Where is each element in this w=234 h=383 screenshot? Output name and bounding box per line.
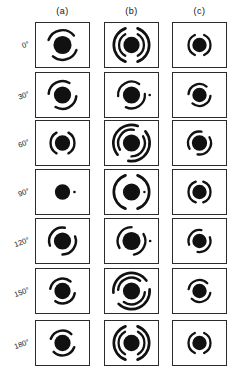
- pattern-core-disk: [55, 184, 70, 199]
- speckle-pattern-icon: [173, 170, 226, 214]
- speckle-pattern-icon: [105, 170, 158, 214]
- speckle-pattern-icon: [105, 219, 158, 263]
- pattern-core-disk: [192, 38, 206, 52]
- pattern-core-disk: [123, 335, 139, 351]
- pattern-panel-a-row2: [35, 120, 90, 166]
- speckle-pattern-icon: [105, 269, 158, 313]
- pattern-core-disk: [53, 36, 71, 54]
- pattern-panel-c-row1: [172, 72, 227, 118]
- pattern-panel-b-row0: [104, 22, 159, 68]
- speckle-pattern-icon: [173, 269, 226, 313]
- pattern-panel-c-row2: [172, 120, 227, 166]
- pattern-panel-b-row4: [104, 218, 159, 264]
- pattern-core-disk: [192, 284, 206, 298]
- pattern-core-disk: [192, 135, 207, 150]
- pattern-panel-c-row6: [172, 320, 227, 366]
- row-label-angle-2: 60°: [0, 137, 30, 155]
- pattern-core-disk: [123, 134, 140, 151]
- pattern-core-disk: [54, 335, 70, 351]
- pattern-panel-a-row0: [35, 22, 90, 68]
- speckle-pattern-icon: [173, 321, 226, 365]
- column-header-c: (c): [172, 6, 227, 16]
- pattern-core-disk: [55, 135, 70, 150]
- pattern-core-disk: [54, 232, 71, 249]
- row-label-angle-5: 150°: [0, 285, 30, 303]
- speckle-pattern-icon: [36, 170, 89, 214]
- speckle-pattern-icon: [173, 121, 226, 165]
- speckle-pattern-icon: [36, 321, 89, 365]
- pattern-core-disk: [54, 283, 70, 299]
- speckle-pattern-icon: [36, 219, 89, 263]
- pattern-core-disk: [192, 234, 206, 248]
- row-label-angle-4: 120°: [0, 235, 30, 253]
- row-label-angle-6: 180°: [0, 337, 30, 355]
- speckle-pattern-icon: [36, 121, 89, 165]
- speckle-pattern-icon: [36, 73, 89, 117]
- pattern-core-disk: [54, 86, 71, 103]
- pattern-panel-b-row2: [104, 120, 159, 166]
- pattern-panel-b-row6: [104, 320, 159, 366]
- pattern-panel-a-row1: [35, 72, 90, 118]
- pattern-panel-b-row1: [104, 72, 159, 118]
- speckle-pattern-icon: [105, 23, 158, 67]
- speckle-pattern-icon: [173, 219, 226, 263]
- pattern-panel-b-row3: [104, 169, 159, 215]
- pattern-core-disk: [123, 86, 140, 103]
- pattern-panel-b-row5: [104, 268, 159, 314]
- pattern-panel-c-row0: [172, 22, 227, 68]
- column-header-b: (b): [104, 6, 159, 16]
- pattern-panel-a-row3: [35, 169, 90, 215]
- pattern-panel-c-row4: [172, 218, 227, 264]
- pattern-core-disk: [123, 37, 139, 53]
- speckle-pattern-icon: [36, 23, 89, 67]
- pattern-panel-a-row4: [35, 218, 90, 264]
- pattern-core-disk: [192, 336, 206, 350]
- row-label-angle-1: 30°: [0, 89, 30, 107]
- pattern-panel-a-row6: [35, 320, 90, 366]
- column-header-a: (a): [35, 6, 90, 16]
- pattern-panel-c-row5: [172, 268, 227, 314]
- speckle-pattern-icon: [36, 269, 89, 313]
- pattern-core-disk: [122, 232, 140, 250]
- speckle-pattern-icon: [173, 73, 226, 117]
- speckle-pattern-icon: [173, 23, 226, 67]
- pattern-panel-c-row3: [172, 169, 227, 215]
- speckle-pattern-icon: [105, 73, 158, 117]
- row-label-angle-3: 90°: [0, 186, 30, 204]
- row-label-angle-0: 0°: [0, 39, 30, 57]
- figure-panel-grid: (a)(b)(c)0°30°60°90°120°150°180°: [0, 0, 234, 383]
- pattern-core-disk: [192, 185, 206, 199]
- pattern-core-disk: [123, 183, 140, 200]
- pattern-panel-a-row5: [35, 268, 90, 314]
- speckle-pattern-icon: [105, 321, 158, 365]
- pattern-core-disk: [192, 88, 206, 102]
- speckle-pattern-icon: [105, 121, 158, 165]
- pattern-core-disk: [123, 282, 140, 299]
